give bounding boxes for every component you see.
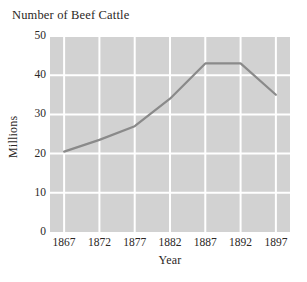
x-axis-tick-labels: 1867187218771882188718921897 (50, 236, 290, 252)
plot-area (50, 36, 290, 232)
x-axis-tick-label: 1897 (253, 236, 299, 249)
x-axis-title: Year (50, 253, 290, 268)
y-axis-tick-label: 20 (2, 148, 46, 160)
y-axis-tick-label: 40 (2, 69, 46, 81)
series-line-beef-cattle (64, 63, 276, 151)
y-axis-tick-label: 30 (2, 108, 46, 120)
beef-cattle-line-chart: Number of Beef Cattle Millions 010203040… (0, 0, 307, 282)
y-axis-tick-labels: 01020304050 (0, 36, 46, 232)
data-series-line (50, 36, 290, 232)
y-axis-tick-label: 50 (2, 30, 46, 42)
y-axis-tick-label: 0 (2, 226, 46, 238)
chart-title: Number of Beef Cattle (12, 8, 129, 23)
y-axis-tick-label: 10 (2, 187, 46, 199)
